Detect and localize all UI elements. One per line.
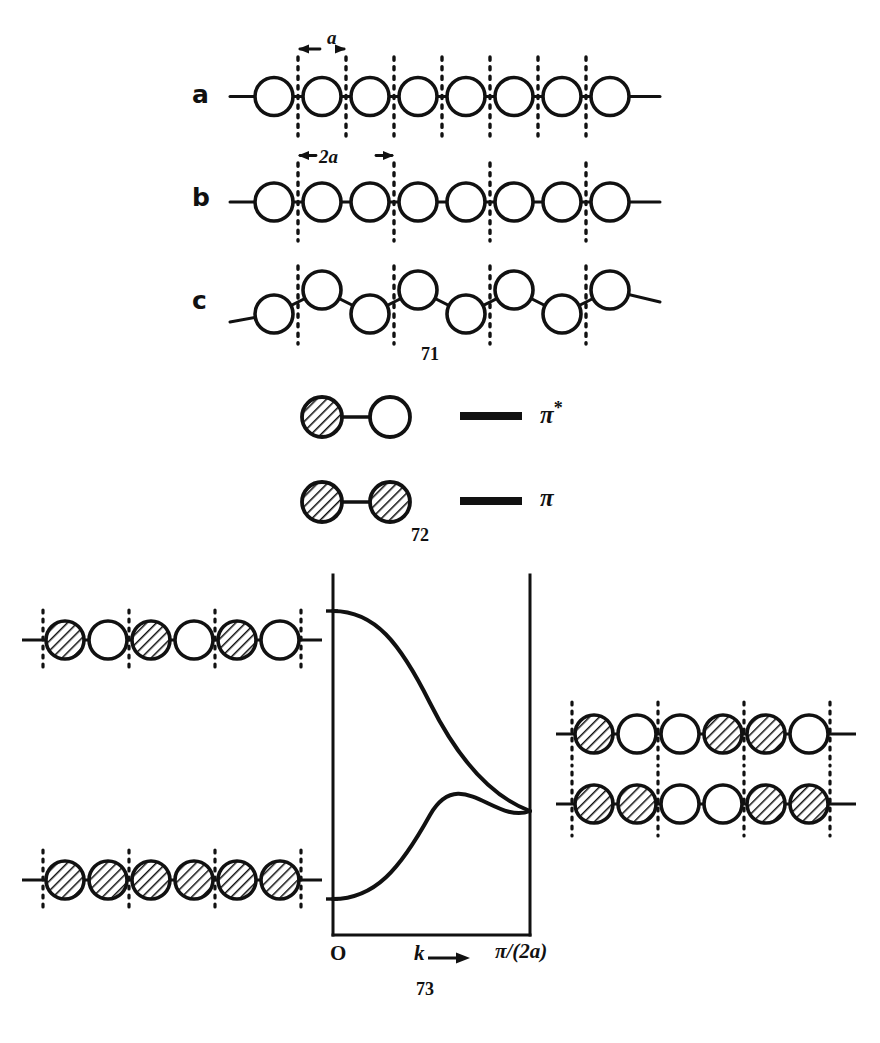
figure-73: O k π/(2a) — [0, 555, 880, 1043]
orbital-lobe-hatched — [302, 397, 342, 437]
orbital-pi-star-diagram — [295, 390, 425, 444]
orbital-lobe-open — [618, 715, 656, 753]
pi-star-superscript: * — [554, 398, 563, 418]
x-axis-origin-label: O — [330, 943, 346, 964]
pi-star-label: π* — [540, 399, 563, 427]
chain-row-a — [230, 40, 660, 150]
pi-star-glyph: π — [540, 401, 554, 428]
orbital-lobe-hatched — [218, 861, 256, 899]
figure-page: a 2a a b c — [0, 0, 880, 1043]
row-letter-a: a — [192, 82, 209, 107]
orbital-lobe-hatched — [747, 785, 785, 823]
orbital-lobe-open — [661, 715, 699, 753]
orbital-lobe-open — [89, 621, 127, 659]
x-axis-max-label: π/(2a) — [495, 941, 547, 962]
figure-72: π* π 72 — [0, 385, 880, 550]
orbital-lobe-hatched — [302, 482, 342, 522]
pi-glyph: π — [540, 484, 554, 511]
orbital-pi-diagram — [295, 475, 425, 529]
right-chain-bottom — [556, 770, 876, 840]
orbital-lobe-hatched — [132, 861, 170, 899]
orbital-lobe-hatched — [790, 785, 828, 823]
orbital-lobe-open — [661, 785, 699, 823]
chain-row-c — [230, 258, 660, 358]
row-letter-c: c — [192, 288, 207, 313]
orbital-lobe-hatched — [175, 861, 213, 899]
pi-label: π — [540, 485, 554, 510]
orbital-lobe-hatched — [261, 861, 299, 899]
chain-row-b — [230, 155, 660, 255]
right-chain-top — [556, 700, 876, 770]
plot-frame — [333, 575, 530, 935]
orbital-lobe-hatched — [704, 715, 742, 753]
figure-72-caption: 72 — [390, 526, 450, 544]
orbital-lobe-open — [704, 785, 742, 823]
orbital-lobe-hatched — [89, 861, 127, 899]
figure-71: a 2a a b c — [0, 0, 880, 380]
left-chain-top — [10, 600, 330, 680]
orbital-lobe-open — [370, 397, 410, 437]
orbital-lobe-hatched — [575, 715, 613, 753]
orbital-lobe-hatched — [46, 621, 84, 659]
x-axis-label: k — [414, 943, 425, 964]
figure-71-caption: 71 — [390, 345, 470, 363]
row-letter-b: b — [192, 185, 210, 210]
figure-73-caption: 73 — [390, 980, 460, 998]
measure-arrowheads-a — [298, 44, 346, 53]
orbital-lobe-open — [261, 621, 299, 659]
energy-level-bar-pi — [460, 494, 522, 508]
lower-band-curve — [333, 794, 530, 899]
orbital-lobe-hatched — [747, 715, 785, 753]
left-chain-bottom — [10, 840, 330, 920]
orbital-lobe-hatched — [618, 785, 656, 823]
orbital-lobe-hatched — [46, 861, 84, 899]
orbital-lobe-open — [790, 715, 828, 753]
energy-level-bar-pi-star — [460, 409, 522, 423]
band-structure-plot — [330, 573, 550, 955]
orbital-lobe-hatched — [370, 482, 410, 522]
orbital-lobe-open — [175, 621, 213, 659]
orbital-lobe-hatched — [132, 621, 170, 659]
upper-band-curve — [333, 611, 530, 811]
orbital-lobe-hatched — [575, 785, 613, 823]
x-axis-arrow-icon — [428, 951, 470, 965]
orbital-lobe-hatched — [218, 621, 256, 659]
